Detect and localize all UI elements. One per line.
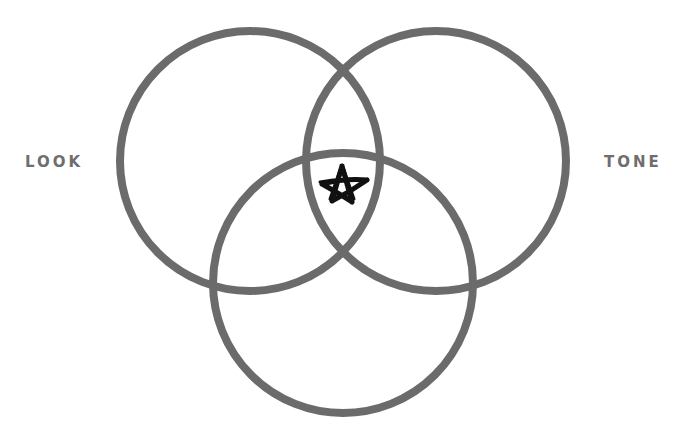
venn-diagram: LOOK TONE — [0, 0, 682, 447]
circle-right — [306, 31, 566, 291]
star-icon — [320, 166, 367, 202]
label-look: LOOK — [25, 155, 83, 170]
venn-svg — [0, 0, 682, 447]
label-tone: TONE — [604, 155, 662, 170]
circle-bottom — [213, 153, 473, 413]
